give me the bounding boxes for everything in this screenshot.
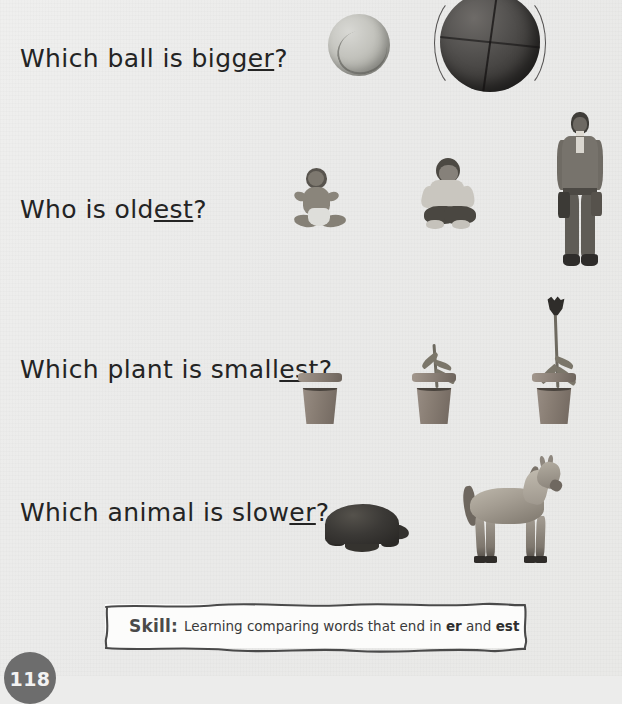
horse-muzzle: [548, 478, 564, 493]
boy-image: [420, 158, 478, 234]
page-number-badge: 118: [4, 652, 56, 704]
tortoise-image: [325, 504, 409, 556]
skill-box: Skill: Learning comparing words that end…: [105, 604, 525, 648]
basketball-arc-right: [486, 0, 546, 92]
question-text-4: Which animal is slower?: [20, 498, 330, 527]
skill-emphasis-est: est: [496, 618, 520, 634]
horse-leg-front-b: [535, 516, 546, 560]
tortoise-shell: [325, 504, 399, 544]
pot-body-3: [534, 388, 574, 424]
tennis-ball-image: [328, 14, 390, 76]
man-face: [573, 117, 587, 132]
horse-hoof-b: [535, 556, 547, 563]
question-text-3: Which plant is smallest?: [20, 355, 332, 384]
question-row-1: Which ball is bigger?: [0, 0, 622, 110]
horse-hoof-d: [485, 556, 497, 563]
pot-body-1: [300, 388, 340, 424]
pot-rim-2: [412, 373, 456, 382]
boy-shoe-left: [426, 220, 444, 229]
pot-rim-3: [532, 373, 576, 382]
skill-description: Learning comparing words that end in er …: [184, 618, 519, 634]
empty-pot-image: [300, 378, 344, 424]
sprout-pot-image: [414, 378, 458, 424]
pot-rim-1: [298, 373, 342, 382]
pot-soil-1: [303, 386, 337, 391]
man-boot-left: [563, 254, 580, 266]
question-text-1: Which ball is bigger?: [20, 44, 288, 73]
boy-shoe-right: [452, 220, 470, 229]
baby-image: [292, 168, 348, 234]
man-boot-right: [581, 254, 598, 266]
skill-text: Skill: Learning comparing words that end…: [129, 604, 519, 648]
horse-image: [466, 464, 562, 566]
man-tool-right: [591, 192, 602, 216]
horse-leg-back-a: [475, 516, 486, 560]
pot-soil-3: [537, 386, 571, 391]
horse-leg-front-a: [526, 516, 535, 560]
skill-emphasis-er: er: [446, 618, 462, 634]
man-image: [556, 112, 604, 270]
basketball-image: [440, 0, 540, 92]
baby-diaper: [308, 208, 330, 226]
man-tool-left: [558, 192, 570, 218]
pot-soil-2: [417, 386, 451, 391]
baby-face: [308, 171, 324, 186]
tulip-pot-image: [534, 378, 578, 424]
question-text-2: Who is oldest?: [20, 195, 207, 224]
skill-label: Skill:: [129, 616, 178, 636]
pot-body-2: [414, 388, 454, 424]
man-undershirt: [576, 137, 584, 153]
